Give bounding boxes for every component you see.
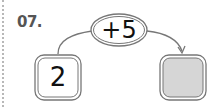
connector-line-in bbox=[58, 31, 92, 54]
connector-line-out bbox=[147, 31, 182, 51]
input-value: 2 bbox=[35, 55, 81, 100]
operation-label: +5 bbox=[91, 13, 147, 47]
